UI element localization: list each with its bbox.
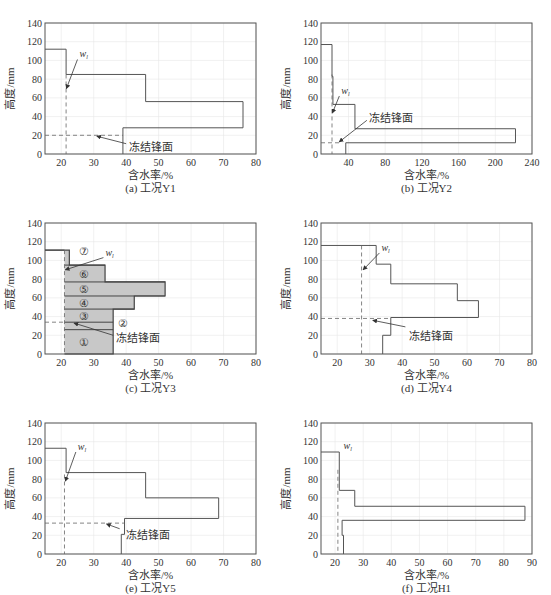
layer-label: ⑦ (79, 245, 89, 257)
layer-label: ⑤ (79, 283, 89, 295)
y-tick-label: 0 (37, 549, 42, 560)
x-tick-label: 30 (358, 557, 368, 568)
y-tick-label: 0 (313, 349, 318, 360)
x-tick-label: 50 (154, 357, 164, 368)
y-tick-label: 60 (308, 92, 318, 103)
y-tick-label: 80 (32, 74, 42, 85)
y-tick-label: 60 (32, 292, 42, 303)
y-tick-label: 100 (303, 255, 318, 266)
y-axis-label: 高度/mm (3, 67, 16, 110)
x-tick-label: 20 (56, 357, 66, 368)
x-tick-label: 80 (251, 557, 261, 568)
chart-caption: (d) 工况Y4 (401, 382, 453, 395)
x-tick-label: 40 (344, 157, 354, 168)
x-tick-label: 30 (89, 357, 99, 368)
x-tick-label: 30 (89, 157, 99, 168)
moisture-profile-line (321, 452, 525, 554)
x-tick-label: 200 (488, 157, 503, 168)
moisture-profile-line (321, 245, 478, 354)
y-tick-label: 0 (37, 349, 42, 360)
y-tick-label: 120 (27, 36, 42, 47)
x-tick-label: 60 (186, 157, 196, 168)
y-tick-label: 140 (303, 218, 318, 229)
y-tick-label: 40 (32, 111, 42, 122)
y-tick-label: 140 (27, 418, 42, 429)
y-tick-label: 20 (308, 530, 318, 541)
layer-label: ④ (79, 297, 89, 309)
frost-front-label: 冻结锋面 (129, 140, 173, 153)
y-tick-label: 120 (27, 236, 42, 247)
chart-panel-e: 冻结锋面wl20304050607080020406080100120140含水… (0, 400, 275, 595)
wl-arrow (65, 452, 75, 481)
y-tick-label: 120 (27, 436, 42, 447)
layer-label: ② (118, 317, 128, 329)
x-tick-label: 40 (121, 357, 131, 368)
chart-panel-d: 冻结锋面wl20304050607080020406080100120140含水… (276, 200, 551, 398)
y-tick-label: 20 (308, 330, 318, 341)
y-tick-label: 120 (303, 436, 318, 447)
x-tick-label: 40 (397, 357, 407, 368)
x-tick-label: 120 (414, 157, 429, 168)
y-tick-label: 140 (27, 218, 42, 229)
y-axis-label: 高度/mm (3, 267, 16, 310)
x-tick-label: 30 (365, 357, 375, 368)
y-tick-label: 140 (303, 18, 318, 29)
x-tick-label: 40 (121, 557, 131, 568)
frost-front-label: 冻结锋面 (116, 331, 160, 344)
chart-caption: (e) 工况Y5 (125, 582, 176, 595)
frost-front-label: 冻结锋面 (126, 528, 170, 541)
y-tick-label: 0 (313, 549, 318, 560)
frost-front-arrow (107, 524, 120, 529)
y-tick-label: 100 (303, 55, 318, 66)
x-tick-label: 60 (462, 357, 472, 368)
x-axis-label: 含水率/% (128, 368, 173, 381)
x-tick-label: 240 (525, 157, 540, 168)
x-tick-label: 20 (332, 357, 342, 368)
y-tick-label: 120 (303, 36, 318, 47)
wl-label: wl (105, 247, 114, 259)
x-axis-label: 含水率/% (404, 568, 449, 581)
y-axis-label: 高度/mm (279, 267, 292, 310)
x-tick-label: 160 (451, 157, 466, 168)
x-tick-label: 40 (386, 557, 396, 568)
x-tick-label: 20 (330, 557, 340, 568)
x-tick-label: 80 (527, 357, 537, 368)
chart-caption: (c) 工况Y3 (125, 382, 176, 395)
frost-front-label: 冻结锋面 (369, 111, 413, 124)
y-tick-label: 120 (303, 236, 318, 247)
x-tick-label: 70 (471, 557, 481, 568)
y-tick-label: 80 (308, 474, 318, 485)
x-tick-label: 80 (499, 557, 509, 568)
frost-front-arrow (97, 136, 126, 143)
y-axis-label: 高度/mm (3, 467, 16, 510)
frost-front-label: 冻结锋面 (409, 329, 453, 342)
x-axis-label: 含水率/% (404, 168, 449, 181)
moisture-profile-line (321, 45, 515, 154)
chart-panel-a: 冻结锋面wl20304050607080020406080100120140含水… (0, 0, 275, 198)
x-tick-label: 40 (121, 157, 131, 168)
layer-label: ③ (79, 310, 89, 322)
y-tick-label: 80 (32, 274, 42, 285)
y-tick-label: 140 (303, 418, 318, 429)
x-tick-label: 80 (251, 357, 261, 368)
layer-label: ① (79, 336, 89, 348)
x-tick-label: 70 (219, 357, 229, 368)
x-tick-label: 50 (154, 157, 164, 168)
x-tick-label: 90 (527, 557, 537, 568)
y-tick-label: 100 (27, 255, 42, 266)
chart-panel-f: wl2030405060708090020406080100120140含水率/… (276, 400, 551, 595)
y-tick-label: 20 (32, 330, 42, 341)
chart-panel-c: 冻结锋面wl①②③④⑤⑥⑦203040506070800204060801001… (0, 200, 275, 398)
x-tick-label: 70 (495, 357, 505, 368)
grid (45, 23, 256, 154)
frost-front-arrow (373, 320, 405, 327)
chart-caption: (a) 工况Y1 (125, 182, 175, 195)
x-tick-label: 80 (251, 157, 261, 168)
x-tick-label: 60 (186, 557, 196, 568)
wl-label: wl (381, 242, 390, 254)
y-tick-label: 40 (308, 511, 318, 522)
y-tick-label: 60 (308, 492, 318, 503)
x-tick-label: 20 (56, 157, 66, 168)
x-tick-label: 20 (56, 557, 66, 568)
chart-caption: (f) 工况H1 (402, 582, 451, 595)
